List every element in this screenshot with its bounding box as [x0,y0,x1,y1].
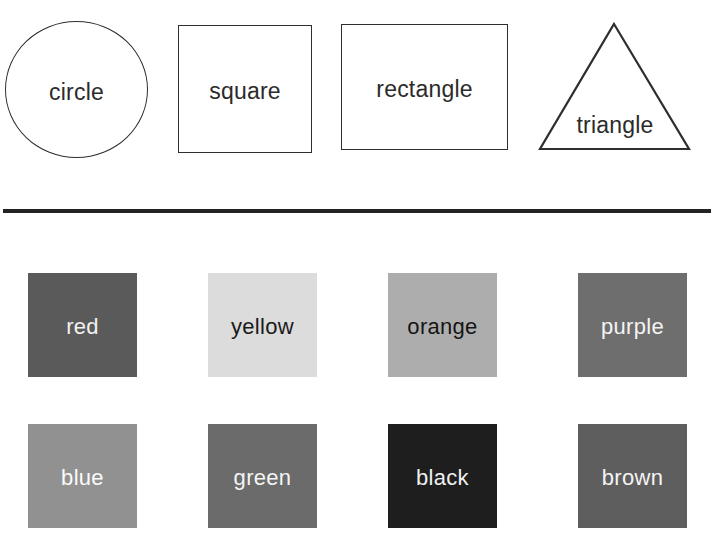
color-swatch-blue-label: blue [61,467,104,489]
shape-triangle-label: triangle [535,114,695,137]
color-swatch-blue: blue [28,424,137,528]
color-swatch-orange-label: orange [407,316,477,338]
color-swatch-red: red [28,273,137,377]
color-swatch-green-label: green [234,467,292,489]
color-swatch-yellow: yellow [208,273,317,377]
section-divider [3,209,711,213]
color-swatch-purple: purple [578,273,687,377]
shape-circle: circle [5,21,148,158]
color-swatch-red-label: red [66,316,99,338]
shapes-section: circle square rectangle triangle [0,0,715,200]
colors-section: red yellow orange purple blue green blac… [0,255,715,540]
color-swatch-brown-label: brown [602,467,663,489]
color-swatch-purple-label: purple [601,316,664,338]
color-swatch-green: green [208,424,317,528]
color-swatch-black: black [388,424,497,528]
shape-triangle: triangle [535,20,695,154]
shape-rectangle: rectangle [341,24,508,150]
worksheet-page: circle square rectangle triangle red yel… [0,0,715,540]
color-swatch-black-label: black [416,467,469,489]
shape-square: square [178,25,312,153]
shape-rectangle-label: rectangle [342,78,507,101]
color-swatch-orange: orange [388,273,497,377]
color-swatch-brown: brown [578,424,687,528]
shape-square-label: square [179,80,311,103]
color-swatch-yellow-label: yellow [231,316,294,338]
shape-circle-label: circle [6,81,147,104]
